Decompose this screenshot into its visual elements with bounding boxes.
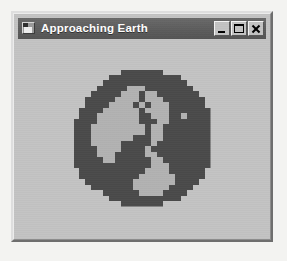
window-controls bbox=[214, 21, 264, 36]
minimize-icon bbox=[218, 31, 225, 33]
screenshot-root: Approaching Earth bbox=[0, 0, 287, 261]
earth-globe-bitmap bbox=[74, 70, 211, 207]
maximize-button[interactable] bbox=[231, 21, 247, 36]
form-icon bbox=[21, 21, 37, 36]
client-area bbox=[18, 41, 266, 235]
window-inner-frame: Approaching Earth bbox=[13, 13, 271, 240]
close-button[interactable] bbox=[248, 21, 264, 36]
earth-globe-svg bbox=[74, 70, 211, 207]
minimize-button[interactable] bbox=[214, 21, 230, 36]
title-bar[interactable]: Approaching Earth bbox=[18, 18, 266, 39]
application-window[interactable]: Approaching Earth bbox=[11, 11, 273, 242]
window-title: Approaching Earth bbox=[41, 18, 214, 39]
maximize-icon bbox=[234, 24, 244, 33]
